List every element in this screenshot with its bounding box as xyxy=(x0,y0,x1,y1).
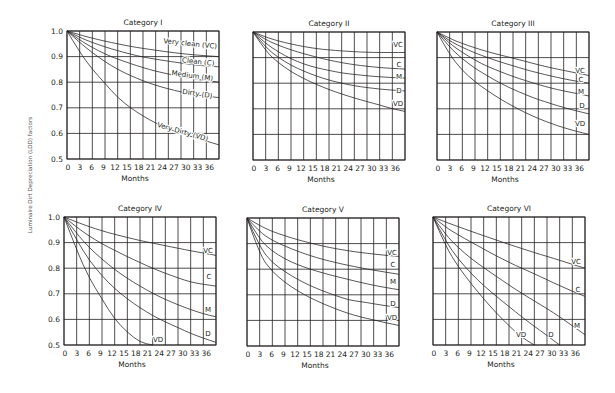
panel-title: Category I xyxy=(124,18,163,27)
x-tick-label: 33 xyxy=(379,164,389,173)
y-tick-label: 0.6 xyxy=(51,129,63,138)
curve-label: M xyxy=(574,322,580,330)
x-tick-label: 0 xyxy=(66,163,71,172)
x-tick-label: 9 xyxy=(471,164,476,173)
y-tick-label: 1.0 xyxy=(51,27,63,36)
x-tick-label: 3 xyxy=(257,350,262,359)
x-tick-label: 36 xyxy=(205,163,215,172)
curve-label: D xyxy=(579,102,584,110)
x-tick-label: 0 xyxy=(436,164,441,173)
x-tick-label: 24 xyxy=(523,349,533,358)
curve-label: C xyxy=(579,76,584,84)
x-axis-label: Months xyxy=(118,360,146,369)
curve-label: Dirty (D) xyxy=(182,88,213,101)
panel-title: Category VI xyxy=(487,204,531,213)
y-tick-label: 1.0 xyxy=(48,213,60,222)
curve-label: VD xyxy=(575,120,585,128)
curve-label: C xyxy=(576,286,581,294)
panel-title: Category II xyxy=(308,19,349,28)
curve-label: VC xyxy=(571,258,581,266)
x-tick-label: 24 xyxy=(154,349,164,358)
curve-label: VC xyxy=(387,249,397,257)
x-tick-label: 24 xyxy=(337,350,347,359)
curve-label: Very clean (VC) xyxy=(163,37,218,51)
x-tick-label: 6 xyxy=(89,163,94,172)
x-tick-label: 12 xyxy=(110,163,120,172)
x-tick-label: 0 xyxy=(246,350,251,359)
curve-label: C xyxy=(391,261,396,269)
x-tick-label: 3 xyxy=(74,349,79,358)
ldd-chart-grid: Category I0.50.60.70.80.91.0036912151821… xyxy=(0,0,615,393)
curve-label: D xyxy=(205,330,210,338)
x-tick-label: 36 xyxy=(385,350,395,359)
curve-label: VD xyxy=(153,336,163,344)
chart-panel-category-i: Category I0.50.60.70.80.91.0036912151821… xyxy=(51,18,219,183)
panel-title: Category III xyxy=(491,19,534,28)
x-tick-label: 18 xyxy=(500,349,510,358)
x-tick-label: 21 xyxy=(332,164,342,173)
curve-label: VC xyxy=(575,67,585,75)
x-tick-label: 30 xyxy=(361,350,371,359)
x-tick-label: 6 xyxy=(275,164,280,173)
x-tick-label: 9 xyxy=(467,349,472,358)
x-tick-label: 33 xyxy=(193,163,203,172)
x-tick-label: 0 xyxy=(63,349,68,358)
chart-panel-category-iv: Category IV0.50.60.70.80.91.003691215182… xyxy=(48,204,216,369)
y-tick-label: 0.8 xyxy=(51,78,63,87)
y-tick-label: 0.7 xyxy=(48,289,60,298)
x-tick-label: 18 xyxy=(320,164,330,173)
x-tick-label: 6 xyxy=(459,164,464,173)
x-tick-label: 18 xyxy=(314,350,324,359)
x-tick-label: 21 xyxy=(326,350,336,359)
x-tick-label: 36 xyxy=(575,164,585,173)
curve-label: C xyxy=(207,273,212,281)
grid xyxy=(64,217,216,345)
x-tick-label: 9 xyxy=(287,164,292,173)
x-tick-label: 21 xyxy=(516,164,526,173)
curve-label: M xyxy=(578,88,584,96)
y-tick-label: 0.7 xyxy=(51,103,63,112)
x-tick-label: 33 xyxy=(373,350,383,359)
curve-label: M xyxy=(390,278,396,286)
chart-panel-category-ii: Category II0369121518212427303336MonthsV… xyxy=(252,19,405,184)
curve-label: D xyxy=(390,300,395,308)
curve-label: Very Dirty (VD) xyxy=(156,121,209,143)
x-tick-label: 36 xyxy=(571,349,581,358)
y-tick-label: 0.9 xyxy=(48,238,60,247)
x-tick-label: 18 xyxy=(504,164,514,173)
x-tick-label: 0 xyxy=(252,164,257,173)
x-tick-label: 24 xyxy=(157,163,167,172)
x-tick-label: 21 xyxy=(512,349,522,358)
x-tick-label: 36 xyxy=(391,164,401,173)
x-axis-label: Months xyxy=(487,360,515,369)
x-tick-label: 27 xyxy=(535,349,545,358)
x-axis-label: Months xyxy=(491,175,519,184)
x-tick-label: 3 xyxy=(443,349,448,358)
x-tick-label: 3 xyxy=(447,164,452,173)
x-tick-label: 6 xyxy=(269,350,274,359)
x-tick-label: 18 xyxy=(134,163,144,172)
x-tick-label: 21 xyxy=(143,349,153,358)
x-tick-label: 27 xyxy=(349,350,359,359)
curve-label: M xyxy=(396,73,402,81)
panel-title: Category IV xyxy=(118,204,163,213)
x-tick-label: 9 xyxy=(101,163,106,172)
chart-panel-category-v: Category V0369121518212427303336MonthsVC… xyxy=(246,205,399,370)
x-tick-label: 33 xyxy=(559,349,569,358)
y-tick-label: 0.8 xyxy=(48,264,60,273)
curve-label: VC xyxy=(393,41,403,49)
x-tick-label: 15 xyxy=(488,349,498,358)
curve-label: M xyxy=(205,306,211,314)
curve-label: D xyxy=(396,87,401,95)
grid xyxy=(247,218,399,346)
x-tick-label: 15 xyxy=(492,164,502,173)
x-tick-label: 12 xyxy=(480,164,490,173)
x-tick-label: 36 xyxy=(202,349,212,358)
x-tick-label: 24 xyxy=(343,164,353,173)
curve-label: D xyxy=(548,331,553,339)
x-axis-label: Months xyxy=(307,175,335,184)
y-tick-label: 0.9 xyxy=(51,52,63,61)
x-tick-label: 30 xyxy=(551,164,561,173)
y-tick-label: 0.6 xyxy=(48,315,60,324)
curve-label: Medium (M) xyxy=(171,69,214,83)
